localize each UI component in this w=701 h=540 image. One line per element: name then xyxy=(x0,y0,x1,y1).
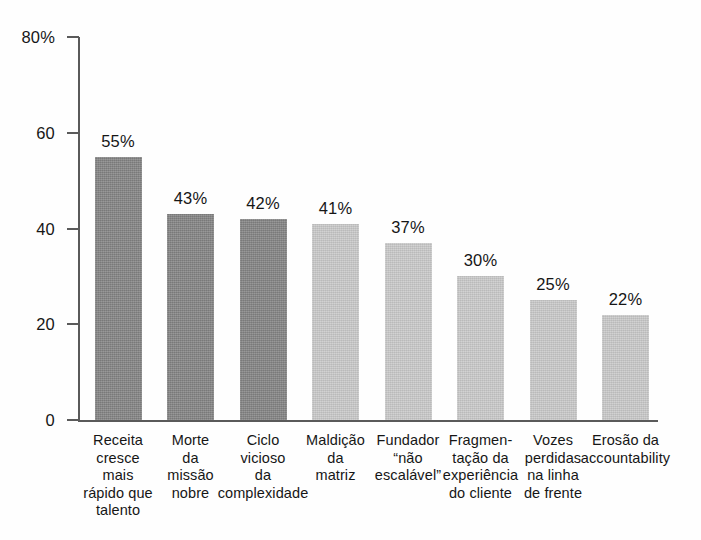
x-axis-category-label-line: accountability xyxy=(578,450,674,468)
bar xyxy=(602,315,649,420)
x-axis-category-label: Erosão daaccountability xyxy=(578,432,674,467)
bar-texture xyxy=(95,157,142,420)
bar xyxy=(95,157,142,420)
bar-texture xyxy=(602,315,649,420)
x-axis-category-label-line: talento xyxy=(70,502,166,520)
x-axis-category-label-line: complexidade xyxy=(215,485,311,503)
bar-value-label: 42% xyxy=(223,195,303,212)
bar-value-label: 25% xyxy=(513,276,593,293)
bar-texture xyxy=(240,219,287,420)
bar-texture xyxy=(312,224,359,420)
bar-chart: 020406080% 55%43%42%41%37%30%25%22% Rece… xyxy=(0,0,701,540)
bar-value-label: 37% xyxy=(368,219,448,236)
bar xyxy=(167,214,214,420)
x-axis-category-label-line: de frente xyxy=(505,485,601,503)
bar-value-label: 43% xyxy=(151,190,231,207)
x-axis-category-label-line: na linha xyxy=(505,467,601,485)
bar-value-label: 22% xyxy=(586,291,666,308)
bar-texture xyxy=(385,243,432,420)
bar-value-label: 30% xyxy=(441,252,521,269)
bar-value-label: 55% xyxy=(78,133,158,150)
x-axis-category-label-line: Erosão da xyxy=(578,432,674,450)
bar-value-label: 41% xyxy=(296,200,376,217)
bar xyxy=(240,219,287,420)
bar-texture xyxy=(457,276,504,420)
bar xyxy=(457,276,504,420)
bar xyxy=(312,224,359,420)
bar xyxy=(530,300,577,420)
bar-texture xyxy=(530,300,577,420)
bar xyxy=(385,243,432,420)
bar-texture xyxy=(167,214,214,420)
